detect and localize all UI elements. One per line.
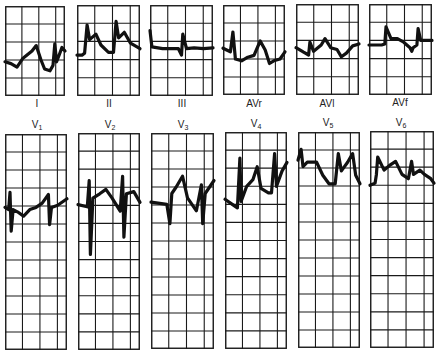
lead-label-V2: V2 [70, 119, 150, 131]
lead-label-I: I [0, 98, 77, 109]
ecg-panel-V5 [298, 132, 360, 348]
ecg-panel-V1 [5, 134, 67, 350]
lead-label-II: II [69, 98, 149, 109]
ecg-grid-V3 [151, 133, 214, 349]
ecg-panel-V4 [225, 132, 287, 349]
ecg-panel-V3 [151, 133, 214, 349]
lead-label-AVr: AVr [214, 98, 294, 109]
ecg-panel-AVr [223, 5, 285, 95]
lead-label-AVl: AVl [287, 98, 367, 109]
ecg-grid-AVf [369, 4, 432, 95]
ecg-panel-III [150, 5, 213, 96]
ecg-grid-V2 [78, 133, 140, 350]
ecg-panel-AVl [296, 4, 359, 95]
lead-label-V6: V6 [361, 117, 440, 129]
ecg-grid-V6 [370, 131, 434, 348]
ecg-grid-I [5, 6, 65, 96]
ecg-panel-V2 [78, 133, 140, 350]
ecg-grid-V1 [5, 134, 67, 350]
ecg-grid-AVl [296, 4, 359, 95]
ecg-panel-AVf [369, 4, 432, 95]
ecg-grid-V4 [225, 132, 287, 349]
ecg-grid-III [150, 5, 213, 96]
lead-label-V3: V3 [143, 119, 223, 131]
lead-label-AVf: AVf [360, 97, 440, 108]
ecg-grid-AVr [223, 5, 285, 95]
lead-label-III: III [142, 98, 222, 109]
ecg-panel-I [5, 6, 65, 96]
lead-label-V1: V1 [0, 119, 77, 131]
ecg-panel-V6 [370, 131, 434, 348]
ecg-panel-II [77, 5, 140, 96]
ecg-grid-II [77, 5, 140, 96]
lead-label-V5: V5 [288, 117, 368, 129]
lead-label-V4: V4 [216, 118, 296, 130]
ecg-grid-V5 [298, 132, 360, 348]
